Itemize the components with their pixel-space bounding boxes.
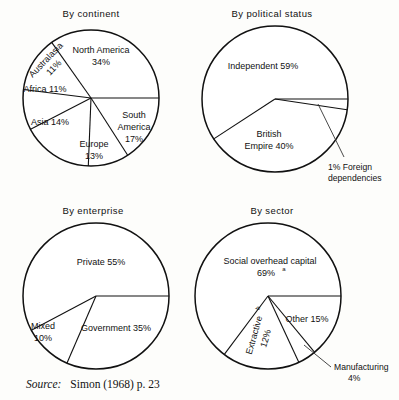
slice-label-south-america: South (122, 110, 146, 120)
slice-label-south-america-pct: 17% (125, 134, 143, 144)
slice-label-private: Private 55% (77, 257, 126, 267)
callout-manufacturing: Manufacturing (334, 362, 389, 372)
slice-label-europe-pct: 13% (85, 151, 103, 161)
chart-by-political-status: By political status Independent 59% Brit… (202, 8, 382, 183)
slice-label-other: Other 15% (285, 314, 328, 324)
chart-title-by-political-status: By political status (232, 8, 313, 19)
callout-manufacturing-pct: 4% (348, 373, 361, 383)
source-label: Source: (26, 378, 61, 390)
slice-label-south-america-2: America (117, 122, 150, 132)
slice-label-british: British (256, 129, 281, 139)
chart-by-continent: By continent North America 34% South Ame… (23, 8, 159, 166)
slice-label-independent: Independent 59% (228, 61, 299, 71)
slice-label-mixed: Mixed (31, 321, 55, 331)
slice-label-british-empire-pct: Empire 40% (244, 141, 293, 151)
slice-label-asia: Asia 14% (31, 117, 69, 127)
slice-label-social-overhead-capital: Social overhead capital (223, 256, 316, 266)
chart-title-by-continent: By continent (62, 8, 119, 19)
slice-label-north-america-pct: 34% (92, 57, 110, 67)
source-citation: Simon (1968) p. 23 (70, 378, 159, 390)
slice-label-mixed-pct: 10% (34, 333, 52, 343)
source-line: Source:Simon (1968) p. 23 (26, 378, 160, 390)
callout-foreign-dependencies: 1% Foreign (328, 162, 372, 172)
chart-by-sector: By sector Social overhead capital 69% a … (195, 205, 389, 383)
slice-label-africa: Africa 11% (24, 84, 67, 94)
slice-label-europe: Europe (79, 139, 108, 149)
slice-label-north-america: North America (72, 45, 129, 55)
chart-title-by-sector: By sector (250, 205, 293, 216)
slice-label-government: Government 35% (81, 323, 151, 333)
pie-chart-figure: By continent North America 34% South Ame… (0, 0, 399, 400)
chart-by-enterprise: By enterprise Private 55% Government 35%… (23, 205, 169, 369)
callout-foreign-dependencies-2: dependencies (328, 173, 382, 183)
figure-svg: By continent North America 34% South Ame… (0, 0, 399, 400)
slice-label-social-overhead-capital-pct: 69% (257, 268, 275, 278)
chart-title-by-enterprise: By enterprise (62, 205, 123, 216)
